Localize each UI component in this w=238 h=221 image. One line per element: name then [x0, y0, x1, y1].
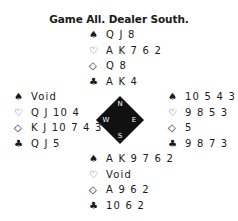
heart-icon: ♡ [89, 43, 106, 59]
club-icon: ♣ [89, 74, 106, 90]
west-spades-row: ♠Void [14, 89, 103, 105]
spade-icon: ♠ [89, 151, 106, 167]
north-spades-row: ♠Q J 8 [89, 27, 162, 43]
west-diamonds-row: ◇K J 10 7 4 3 [14, 120, 103, 136]
club-icon: ♣ [89, 198, 106, 214]
compass-north-label: N [115, 100, 125, 108]
north-hearts: A K 7 6 2 [106, 43, 162, 59]
diamond-icon: ◇ [168, 120, 185, 136]
diamond-icon: ◇ [89, 182, 106, 198]
club-icon: ♣ [14, 136, 31, 152]
east-clubs: 9 8 7 3 [185, 136, 228, 152]
east-hearts: 9 8 5 3 [185, 105, 228, 121]
west-clubs: Q J 5 [31, 136, 61, 152]
south-hand: ♠A K 9 7 6 2 ♡Void ◇A 9 6 2 ♣10 6 2 [89, 151, 174, 213]
heart-icon: ♡ [14, 105, 31, 121]
north-diamonds-row: ◇Q 8 [89, 58, 162, 74]
south-hearts-row: ♡Void [89, 167, 174, 183]
east-spades: 10 5 4 3 [185, 89, 236, 105]
heart-icon: ♡ [89, 167, 106, 183]
club-icon: ♣ [168, 136, 185, 152]
east-clubs-row: ♣9 8 7 3 [168, 136, 236, 152]
compass-west-label: W [101, 116, 111, 124]
north-hearts-row: ♡A K 7 6 2 [89, 43, 162, 59]
north-clubs: A K 4 [106, 74, 138, 90]
heart-icon: ♡ [168, 105, 185, 121]
west-diamonds: K J 10 7 4 3 [31, 120, 103, 136]
south-diamonds-row: ◇A 9 6 2 [89, 182, 174, 198]
east-hand: ♠10 5 4 3 ♡9 8 5 3 ◇5 ♣9 8 7 3 [168, 89, 236, 151]
west-clubs-row: ♣Q J 5 [14, 136, 103, 152]
south-spades-row: ♠A K 9 7 6 2 [89, 151, 174, 167]
south-clubs: 10 6 2 [106, 198, 145, 214]
deal-title: Game All. Dealer South. [0, 13, 238, 25]
compass-south-label: S [115, 132, 125, 140]
diamond-icon: ◇ [89, 58, 106, 74]
compass-east-label: E [129, 116, 139, 124]
east-diamonds: 5 [185, 120, 193, 136]
spade-icon: ♠ [89, 27, 106, 43]
spade-icon: ♠ [168, 89, 185, 105]
west-spades: Void [31, 89, 57, 105]
north-diamonds: Q 8 [106, 58, 127, 74]
north-clubs-row: ♣A K 4 [89, 74, 162, 90]
south-hearts: Void [106, 167, 132, 183]
east-hearts-row: ♡9 8 5 3 [168, 105, 236, 121]
south-spades: A K 9 7 6 2 [106, 151, 174, 167]
north-hand: ♠Q J 8 ♡A K 7 6 2 ◇Q 8 ♣A K 4 [89, 27, 162, 89]
diamond-icon: ◇ [14, 120, 31, 136]
west-hand: ♠Void ♡Q J 10 4 ◇K J 10 7 4 3 ♣Q J 5 [14, 89, 103, 151]
south-diamonds: A 9 6 2 [106, 182, 150, 198]
east-spades-row: ♠10 5 4 3 [168, 89, 236, 105]
north-spades: Q J 8 [106, 27, 136, 43]
south-clubs-row: ♣10 6 2 [89, 198, 174, 214]
west-hearts-row: ♡Q J 10 4 [14, 105, 103, 121]
compass-diamond: N W E S [103, 103, 137, 137]
spade-icon: ♠ [14, 89, 31, 105]
east-diamonds-row: ◇5 [168, 120, 236, 136]
west-hearts: Q J 10 4 [31, 105, 80, 121]
